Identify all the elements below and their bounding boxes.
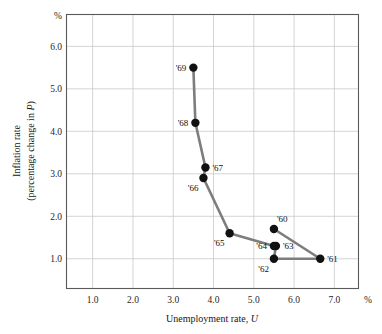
phillips-curve-chart: 1.02.03.04.05.06.0 1.02.03.04.05.06.07.0…	[0, 0, 382, 334]
x-axis-unit-label: %	[364, 295, 372, 305]
point-label-65: '65	[214, 238, 225, 248]
y-tick-2.0: 2.0	[50, 212, 62, 222]
chart-canvas: 1.02.03.04.05.06.0 1.02.03.04.05.06.07.0…	[0, 0, 382, 334]
y-tick-6.0: 6.0	[50, 42, 62, 52]
gridlines	[67, 15, 359, 289]
data-point-65	[225, 229, 233, 237]
x-tick-1.0: 1.0	[87, 295, 99, 305]
point-label-66: '66	[188, 183, 199, 193]
svg-text:Unemployment rate, U: Unemployment rate, U	[166, 313, 259, 324]
y-axis-title-line1: Inflation rate	[11, 124, 22, 176]
x-axis-title-text: Unemployment rate,	[166, 313, 251, 324]
x-tick-7.0: 7.0	[328, 295, 340, 305]
data-point-61	[316, 255, 324, 263]
y-tick-1.0: 1.0	[50, 254, 62, 264]
y-axis-tick-labels: 1.02.03.04.05.06.0	[50, 42, 62, 264]
y-tick-4.0: 4.0	[50, 127, 62, 137]
data-points	[189, 63, 324, 263]
data-point-68	[191, 119, 199, 127]
point-label-69: '69	[176, 63, 187, 73]
x-tick-5.0: 5.0	[248, 295, 260, 305]
point-label-62: '62	[258, 264, 269, 274]
data-point-67	[201, 163, 209, 171]
data-point-60	[270, 225, 278, 233]
point-label-61: '61	[327, 254, 338, 264]
y-axis-title-line2-text: (percentage change in	[25, 111, 37, 201]
data-point-labels: '60'61'62'63'64'65'66'67'68'69	[176, 63, 338, 274]
x-axis-tick-labels: 1.02.03.04.05.06.07.0	[87, 295, 341, 305]
svg-text:(percentage change in P): (percentage change in P)	[25, 101, 37, 201]
plot-area-border	[67, 15, 359, 289]
y-axis-title-line2-close: )	[25, 101, 37, 104]
x-tick-2.0: 2.0	[127, 295, 139, 305]
point-label-67: '67	[212, 163, 223, 173]
x-axis-title-variable: U	[251, 313, 259, 324]
y-axis-unit-label: %	[54, 11, 62, 21]
data-point-66	[199, 174, 207, 182]
data-series-layer: '60'61'62'63'64'65'66'67'68'69	[176, 63, 338, 274]
point-label-64: '64	[256, 241, 267, 251]
point-label-68: '68	[178, 118, 189, 128]
data-point-62	[270, 255, 278, 263]
x-axis-title: Unemployment rate, U	[166, 313, 259, 324]
x-tick-6.0: 6.0	[288, 295, 300, 305]
y-tick-3.0: 3.0	[50, 169, 62, 179]
y-axis-title: Inflation rate (percentage change in P)	[11, 101, 37, 201]
x-tick-3.0: 3.0	[167, 295, 179, 305]
data-point-64	[270, 242, 278, 250]
y-tick-5.0: 5.0	[50, 84, 62, 94]
point-label-63: '63	[283, 241, 294, 251]
y-axis-title-line2-variable: P	[25, 105, 36, 112]
x-tick-4.0: 4.0	[208, 295, 220, 305]
point-label-60: '60	[277, 214, 288, 224]
data-point-69	[189, 63, 197, 71]
